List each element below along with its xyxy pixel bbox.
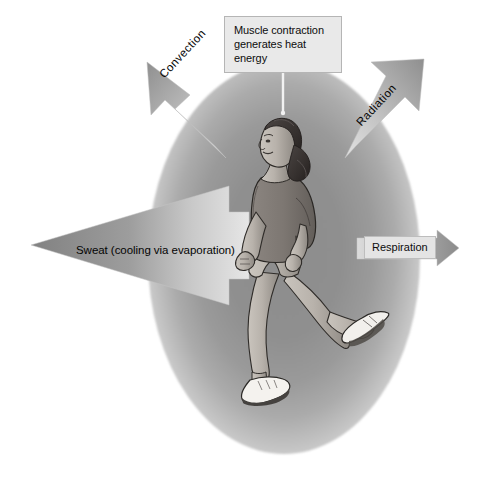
runner-shoe-front (241, 377, 289, 406)
runner-shoe-rear (342, 312, 389, 347)
runner-illustration (236, 118, 389, 406)
convection-arrow (147, 62, 226, 158)
radiation-arrow (345, 59, 424, 158)
respiration-label: Respiration (364, 236, 436, 259)
muscle-contraction-label: Muscle contraction generates heat energy (224, 16, 342, 73)
sweat-label: Sweat (cooling via evaporation) (76, 244, 235, 256)
diagram-canvas: Muscle contraction generates heat energy… (0, 0, 480, 477)
